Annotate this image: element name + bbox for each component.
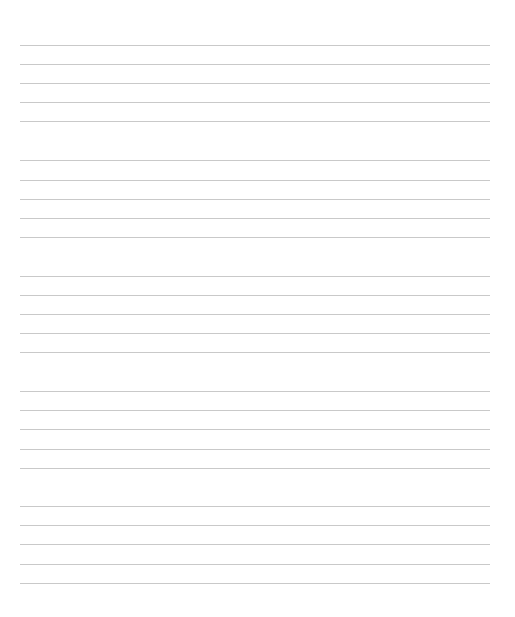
staff-line xyxy=(20,237,490,238)
staff-line xyxy=(20,333,490,334)
staff-line xyxy=(20,218,490,219)
staff-line xyxy=(20,506,490,507)
staff-line xyxy=(20,391,490,392)
staff-line xyxy=(20,583,490,584)
staff-line xyxy=(20,199,490,200)
staff-line xyxy=(20,180,490,181)
music-staff-4 xyxy=(20,391,490,469)
staff-line xyxy=(20,160,490,161)
staff-line xyxy=(20,121,490,122)
staff-line xyxy=(20,429,490,430)
staff-line xyxy=(20,64,490,65)
staff-line xyxy=(20,295,490,296)
staff-line xyxy=(20,468,490,469)
staff-paper-page xyxy=(0,0,515,617)
staff-line xyxy=(20,314,490,315)
staff-line xyxy=(20,83,490,84)
staff-line xyxy=(20,525,490,526)
staff-line xyxy=(20,564,490,565)
music-staff-1 xyxy=(20,45,490,123)
staff-line xyxy=(20,276,490,277)
music-staff-2 xyxy=(20,160,490,238)
staff-line xyxy=(20,102,490,103)
staff-line xyxy=(20,544,490,545)
staff-line xyxy=(20,45,490,46)
music-staff-3 xyxy=(20,276,490,354)
music-staff-5 xyxy=(20,506,490,584)
staff-line xyxy=(20,449,490,450)
staff-line xyxy=(20,410,490,411)
staff-line xyxy=(20,352,490,353)
